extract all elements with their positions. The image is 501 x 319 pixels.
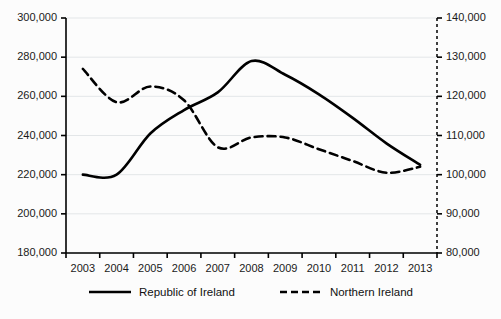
right-axis-tick-label: 100,000 (446, 168, 486, 180)
legend-label: Republic of Ireland (139, 286, 235, 298)
left-axis-tick-label: 280,000 (0, 50, 57, 62)
left-axis-tick-label: 220,000 (0, 168, 57, 180)
solid-line-icon (88, 286, 132, 298)
left-axis-tick-label: 300,000 (0, 11, 57, 23)
left-axis-tick-label: 240,000 (0, 129, 57, 141)
x-axis (66, 253, 437, 258)
data-series (83, 61, 420, 178)
left-axis-tick-label: 260,000 (0, 89, 57, 101)
series-line-0 (83, 61, 420, 178)
right-axis (437, 18, 442, 253)
chart-container: 180,000200,000220,000240,000260,000280,0… (0, 0, 501, 319)
right-axis-tick-label: 120,000 (446, 89, 486, 101)
left-axis-tick-label: 200,000 (0, 207, 57, 219)
chart-legend: Republic of Ireland Northern Ireland (0, 286, 501, 298)
right-axis-tick-label: 140,000 (446, 11, 486, 23)
right-axis-tick-label: 90,000 (446, 207, 480, 219)
left-axis (61, 18, 66, 253)
legend-item-republic-of-ireland: Republic of Ireland (88, 286, 235, 298)
gridlines (66, 18, 437, 253)
right-axis-tick-label: 130,000 (446, 50, 486, 62)
dashed-line-icon (279, 286, 323, 298)
right-axis-tick-label: 110,000 (446, 129, 485, 141)
left-axis-tick-label: 180,000 (0, 246, 57, 258)
right-axis-tick-label: 80,000 (446, 246, 480, 258)
legend-item-northern-ireland: Northern Ireland (279, 286, 413, 298)
legend-label: Northern Ireland (330, 286, 413, 298)
x-axis-tick-label: 2013 (400, 262, 440, 274)
